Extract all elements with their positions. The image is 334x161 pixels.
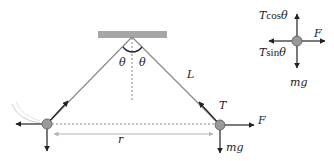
pendulum-diagram: θ θ L T F mg r Tcosθ Tsinθ F mg xyxy=(0,0,334,161)
left-string xyxy=(47,37,132,124)
theta-right-label: θ xyxy=(139,56,146,69)
angle-arc-right xyxy=(132,47,142,52)
fbd-tcos-label: Tcosθ xyxy=(259,9,288,22)
theta-left-label: θ xyxy=(119,56,126,69)
tension-label: T xyxy=(219,99,228,112)
free-body-diagram: Tcosθ Tsinθ F mg xyxy=(259,9,325,89)
motion-trace-2 xyxy=(16,102,40,121)
weight-label: mg xyxy=(226,141,243,154)
angle-arc-left xyxy=(123,47,132,52)
separation-label: r xyxy=(118,133,124,146)
fbd-tsin-label: Tsinθ xyxy=(259,46,286,59)
right-ball xyxy=(215,120,225,130)
motion-trace xyxy=(12,104,40,123)
force-label: F xyxy=(257,114,266,127)
fbd-ball xyxy=(292,36,302,46)
fbd-weight-label: mg xyxy=(290,76,307,89)
left-ball xyxy=(42,119,52,129)
fbd-force-label: F xyxy=(313,27,322,40)
length-label: L xyxy=(186,68,194,81)
right-string xyxy=(132,37,220,125)
